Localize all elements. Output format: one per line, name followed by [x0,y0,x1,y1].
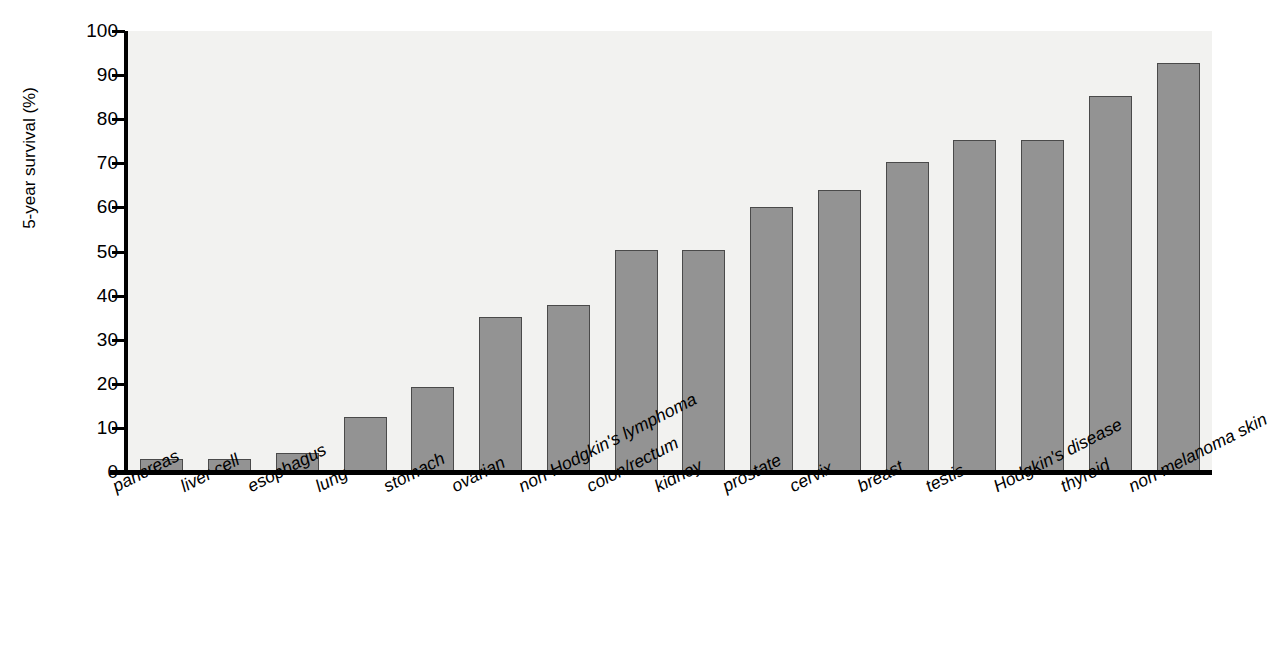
y-tick-mark [112,206,125,209]
y-tick-mark [112,251,125,254]
y-tick-labels: 1009080706050403020100 [60,0,118,472]
y-tick-mark [112,383,125,386]
y-tick-mark [112,30,125,33]
bar [1021,140,1064,473]
bar [818,190,861,472]
y-tick-mark [112,339,125,342]
bar [1157,63,1200,472]
y-tick-mark [112,118,125,121]
bar [344,417,387,472]
bar [682,250,725,472]
y-tick-mark [112,295,125,298]
bar [953,140,996,472]
y-tick-mark [112,427,125,430]
bar [750,207,793,472]
y-axis-title: 5-year survival (%) [20,48,40,268]
y-tick-mark [112,74,125,77]
bar [479,317,522,472]
y-tick-mark [112,162,125,165]
bar [886,162,929,472]
